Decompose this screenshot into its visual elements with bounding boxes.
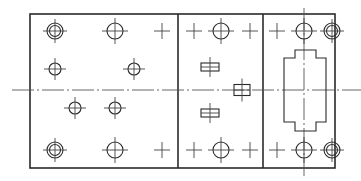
stepped-cutout-outline bbox=[284, 50, 326, 131]
counterbore-hole-icon bbox=[43, 19, 67, 43]
hole-icon bbox=[208, 137, 234, 163]
hole-icon bbox=[44, 58, 66, 80]
crosshair-icon bbox=[269, 142, 285, 158]
hole-icon bbox=[102, 18, 128, 44]
crosshair-icon bbox=[242, 142, 258, 158]
stepped-cutout bbox=[284, 50, 326, 131]
frame-border bbox=[30, 14, 335, 168]
slot-icon bbox=[201, 57, 219, 77]
plate-drawing bbox=[0, 0, 361, 181]
crosshair-icon bbox=[186, 23, 202, 39]
crosshair-icon bbox=[186, 142, 202, 158]
hole-icon bbox=[123, 58, 145, 80]
crosshair-icon bbox=[269, 23, 285, 39]
outer-frame bbox=[30, 14, 335, 168]
counterbore-hole-icon bbox=[320, 19, 344, 43]
hole-icon bbox=[208, 18, 234, 44]
counterbore-hole-icon bbox=[43, 138, 67, 162]
hole-icon bbox=[291, 137, 317, 163]
hole-icon bbox=[104, 97, 126, 119]
slot-icon bbox=[201, 103, 219, 123]
hole-icon bbox=[291, 18, 317, 44]
holes bbox=[43, 18, 344, 163]
crosshair-icon bbox=[154, 142, 170, 158]
hole-icon bbox=[102, 137, 128, 163]
counterbore-hole-icon bbox=[320, 138, 344, 162]
centerlines bbox=[12, 8, 361, 176]
crosshair-icon bbox=[154, 23, 170, 39]
slot-icon bbox=[234, 79, 250, 102]
hole-icon bbox=[64, 97, 86, 119]
crosshair-marks bbox=[154, 23, 285, 158]
crosshair-icon bbox=[242, 23, 258, 39]
